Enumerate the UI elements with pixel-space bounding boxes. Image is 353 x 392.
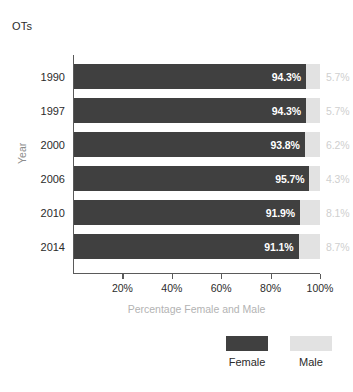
bar-segment-male: 4.3% xyxy=(309,166,320,191)
x-axis-tick-mark xyxy=(172,274,173,279)
bar-value-label-female: 94.3% xyxy=(272,71,301,83)
plot-area: 199019972000200620102014 94.3%5.7%94.3%5… xyxy=(73,55,320,274)
x-axis-tick-label: 100% xyxy=(307,282,334,294)
bar-segment-female: 94.3% xyxy=(74,64,306,89)
bar-segment-female: 93.8% xyxy=(74,132,305,157)
bar-value-label-male: 8.1% xyxy=(326,207,350,219)
bar-row: 93.8%6.2% xyxy=(74,132,320,157)
legend-item-male[interactable]: Male xyxy=(290,336,332,368)
y-axis-tick-label: 2000 xyxy=(5,139,65,151)
bar-segment-male: 5.7% xyxy=(306,98,320,123)
bar-row: 91.1%8.7% xyxy=(74,234,320,259)
bar-segment-male: 6.2% xyxy=(305,132,320,157)
chart-title: OTs xyxy=(12,20,32,32)
x-axis-tick-mark xyxy=(221,274,222,279)
bar-value-label-female: 91.9% xyxy=(266,207,295,219)
y-axis-tick-label: 1997 xyxy=(5,105,65,117)
bar-row: 94.3%5.7% xyxy=(74,64,320,89)
bar-row: 91.9%8.1% xyxy=(74,200,320,225)
bar-segment-female: 91.1% xyxy=(74,234,299,259)
y-axis-tick-label: 2014 xyxy=(5,241,65,253)
bar-value-label-male: 4.3% xyxy=(326,173,350,185)
x-axis-tick-mark xyxy=(122,274,123,279)
y-axis-tick-label: 2006 xyxy=(5,173,65,185)
x-axis-tick-mark xyxy=(271,274,272,279)
bar-segment-female: 91.9% xyxy=(74,200,300,225)
bar-value-label-male: 8.7% xyxy=(326,241,350,253)
bar-segment-female: 95.7% xyxy=(74,166,309,191)
bar-segment-male: 5.7% xyxy=(306,64,320,89)
chart-container: OTs Year 199019972000200620102014 94.3%5… xyxy=(0,0,353,392)
x-axis-tick-label: 60% xyxy=(211,282,232,294)
bar-row: 94.3%5.7% xyxy=(74,98,320,123)
legend-swatch-male xyxy=(290,336,332,351)
x-axis-title: Percentage Female and Male xyxy=(73,303,320,315)
bar-value-label-male: 6.2% xyxy=(326,139,350,151)
bar-value-label-female: 93.8% xyxy=(270,139,299,151)
bars-group: 94.3%5.7%94.3%5.7%93.8%6.2%95.7%4.3%91.9… xyxy=(74,55,320,274)
x-axis-tick-label: 40% xyxy=(161,282,182,294)
legend-swatch-female xyxy=(226,336,268,351)
x-axis-tick-label: 20% xyxy=(112,282,133,294)
legend-label-male: Male xyxy=(299,356,323,368)
bar-value-label-female: 91.1% xyxy=(264,241,293,253)
bar-segment-female: 94.3% xyxy=(74,98,306,123)
bar-value-label-female: 94.3% xyxy=(272,105,301,117)
bar-row: 95.7%4.3% xyxy=(74,166,320,191)
bar-segment-male: 8.7% xyxy=(299,234,320,259)
bar-value-label-female: 95.7% xyxy=(275,173,304,185)
bar-value-label-male: 5.7% xyxy=(326,105,350,117)
y-axis-tick-label: 2010 xyxy=(5,207,65,219)
x-axis-tick-mark xyxy=(320,274,321,279)
bar-segment-male: 8.1% xyxy=(300,200,320,225)
x-axis-tick-label: 80% xyxy=(260,282,281,294)
bar-value-label-male: 5.7% xyxy=(326,71,350,83)
chart-legend: FemaleMale xyxy=(226,336,332,368)
y-axis-tick-label: 1990 xyxy=(5,71,65,83)
legend-label-female: Female xyxy=(229,356,266,368)
legend-item-female[interactable]: Female xyxy=(226,336,268,368)
